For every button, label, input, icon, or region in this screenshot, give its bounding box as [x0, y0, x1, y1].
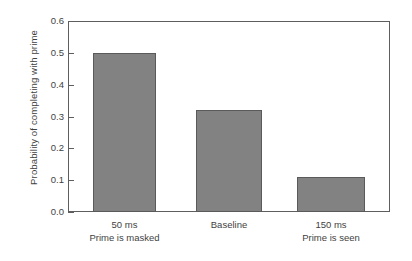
x-label-secondary: Prime is seen — [271, 232, 391, 245]
y-tick-label: 0.3 — [36, 111, 64, 122]
y-tick-mark — [68, 148, 74, 149]
x-label-secondary: Prime is masked — [65, 232, 185, 245]
bar-150-ms — [297, 177, 365, 212]
y-tick-label: 0.2 — [36, 142, 64, 153]
bar-baseline — [196, 110, 262, 212]
x-label-150-ms: 150 msPrime is seen — [271, 219, 391, 244]
x-label-primary: 150 ms — [271, 219, 391, 232]
x-label-50-ms: 50 msPrime is masked — [65, 219, 185, 244]
bar-50-ms — [93, 53, 156, 212]
y-tick-label: 0.1 — [36, 174, 64, 185]
y-tick-label: 0.4 — [36, 79, 64, 90]
y-tick-mark — [68, 53, 74, 54]
y-tick-mark — [68, 21, 74, 22]
y-tick-label: 0.5 — [36, 47, 64, 58]
y-tick-mark — [68, 85, 74, 86]
y-tick-mark — [68, 180, 74, 181]
bar-chart-figure: Probability of completing with prime 0.0… — [0, 0, 412, 261]
y-tick-mark — [68, 117, 74, 118]
y-tick-label: 0.6 — [36, 15, 64, 26]
y-tick-label: 0.0 — [36, 206, 64, 217]
x-label-primary: 50 ms — [65, 219, 185, 232]
y-tick-mark — [68, 212, 74, 213]
